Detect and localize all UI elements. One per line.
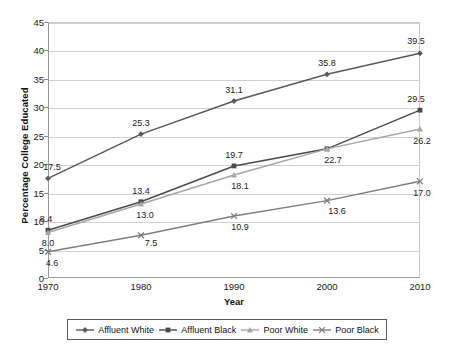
data-label: 10.9: [231, 222, 249, 232]
legend-label: Poor Black: [335, 325, 379, 335]
data-point-marker: [324, 71, 330, 77]
data-label: 17.5: [43, 162, 61, 172]
legend-label: Affluent Black: [181, 325, 236, 335]
legend-marker-triangle-icon: [240, 325, 260, 335]
data-point-marker: [417, 50, 423, 56]
data-label: 18.1: [231, 181, 249, 191]
data-point-marker: [231, 98, 237, 104]
data-point-marker: [166, 327, 171, 332]
data-point-marker: [138, 131, 144, 137]
data-label: 13.6: [328, 206, 346, 216]
legend-item-affluent-black[interactable]: Affluent Black: [158, 325, 236, 335]
data-label: 26.2: [413, 136, 431, 146]
legend-item-affluent-white[interactable]: Affluent White: [75, 325, 154, 335]
data-point-marker: [232, 164, 237, 169]
data-label: 7.5: [145, 238, 158, 248]
data-label: 4.6: [46, 258, 59, 268]
data-label: 35.8: [318, 58, 336, 68]
x-axis-title: Year: [48, 296, 420, 307]
legend-marker-cross-icon: [312, 325, 332, 335]
data-label: 22.7: [324, 155, 342, 165]
data-point-marker: [418, 108, 423, 113]
data-point-marker: [45, 176, 51, 182]
data-label: 31.1: [225, 85, 243, 95]
data-label: 25.3: [132, 118, 150, 128]
data-label: 29.5: [407, 94, 425, 104]
series-line-affluent-black: [48, 110, 420, 230]
legend-item-poor-black[interactable]: Poor Black: [312, 325, 379, 335]
data-label: 8.0: [42, 238, 55, 248]
data-label: 19.7: [225, 150, 243, 160]
legend-item-poor-white[interactable]: Poor White: [240, 325, 308, 335]
data-label: 39.5: [407, 36, 425, 46]
data-label: 17.0: [413, 188, 431, 198]
data-label: 8.4: [40, 214, 53, 224]
chart-legend: Affluent WhiteAffluent BlackPoor WhitePo…: [67, 319, 387, 340]
legend-marker-diamond-icon: [75, 325, 95, 335]
legend-marker-square-icon: [158, 325, 178, 335]
data-point-marker: [82, 327, 88, 333]
legend-label: Affluent White: [98, 325, 154, 335]
line-chart: Percentage College Educated 454035302520…: [0, 0, 451, 353]
data-label: 13.4: [132, 186, 150, 196]
legend-label: Poor White: [263, 325, 308, 335]
data-label: 13.0: [136, 210, 154, 220]
